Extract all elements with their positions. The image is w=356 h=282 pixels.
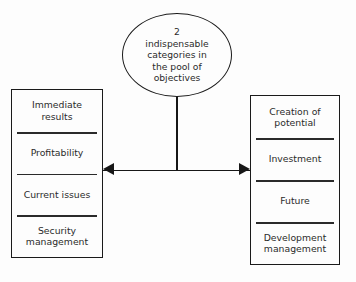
right-category-box: Creation of potential Investment Future … xyxy=(250,95,340,265)
right-item-0-label: Creation of potential xyxy=(269,106,320,129)
bidirectional-arrow-line xyxy=(103,170,250,172)
left-item-1: Profitability xyxy=(12,132,102,174)
left-item-2-label: Current issues xyxy=(24,189,91,200)
right-item-1-label: Investment xyxy=(269,153,322,164)
left-item-3: Security management xyxy=(12,215,102,257)
right-item-2: Future xyxy=(251,180,339,222)
left-item-0-label: Immediate results xyxy=(32,99,82,122)
center-ellipse-node: 2 indispensable categories in the pool o… xyxy=(122,13,232,97)
right-item-1: Investment xyxy=(251,138,339,180)
center-ellipse-label: 2 indispensable categories in the pool o… xyxy=(139,26,214,84)
left-item-2: Current issues xyxy=(12,174,102,216)
left-item-0: Immediate results xyxy=(12,90,102,132)
left-category-box: Immediate results Profitability Current … xyxy=(11,89,103,258)
left-item-1-label: Profitability xyxy=(31,147,84,158)
arrow-head-left-icon xyxy=(103,163,114,175)
right-item-2-label: Future xyxy=(280,195,310,206)
right-item-0: Creation of potential xyxy=(251,96,339,138)
right-item-3-label: Development management xyxy=(264,232,327,255)
arrow-head-right-icon xyxy=(239,163,250,175)
diagram-canvas: 2 indispensable categories in the pool o… xyxy=(0,0,356,282)
left-item-3-label: Security management xyxy=(26,225,88,248)
ellipse-stem-connector xyxy=(176,96,178,171)
right-item-3: Development management xyxy=(251,222,339,264)
